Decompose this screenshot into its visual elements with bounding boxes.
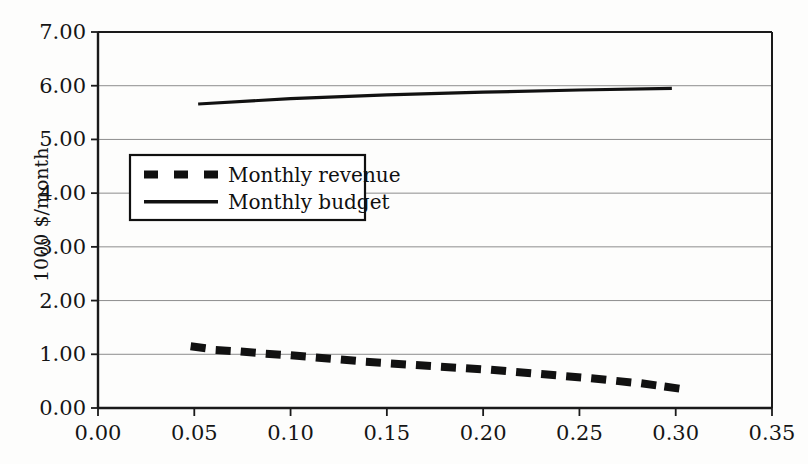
plot-canvas: [0, 0, 808, 464]
x-tick-label: 0.25: [556, 421, 603, 445]
y-tick-label: 0.00: [39, 396, 86, 420]
y-tick-label: 1.00: [39, 342, 86, 366]
series-monthly-budget: [198, 88, 672, 104]
x-tick-label: 0.10: [267, 421, 314, 445]
x-tick-label: 0.15: [363, 421, 410, 445]
series-monthly-revenue: [191, 346, 680, 388]
y-tick-label: 2.00: [39, 289, 86, 313]
legend-label-monthly-budget: Monthly budget: [228, 190, 390, 214]
chart-figure: 0.001.002.003.004.005.006.007.00 0.000.0…: [0, 0, 808, 464]
x-tick-label: 0.30: [652, 421, 699, 445]
legend-label-monthly-revenue: Monthly revenue: [228, 163, 401, 187]
x-tick-label: 0.35: [749, 421, 796, 445]
x-tick-label: 0.00: [75, 421, 122, 445]
y-tick-label: 7.00: [39, 20, 86, 44]
x-tick-label: 0.20: [460, 421, 507, 445]
y-axis-title: 1000 $/month: [30, 148, 52, 282]
y-tick-label: 6.00: [39, 74, 86, 98]
x-tick-label: 0.05: [171, 421, 218, 445]
